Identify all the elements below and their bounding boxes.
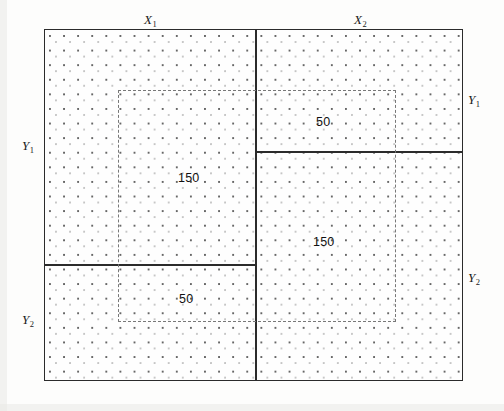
axis-label-y1-right: Y1 (468, 93, 479, 106)
cell-value-bottom-right: 150 (313, 236, 334, 249)
axis-label-x1-base: X (144, 12, 152, 27)
page-edge-artifact-bottom (0, 404, 504, 411)
axis-label-y2-left-base: Y (22, 312, 29, 327)
dashed-overlay-rectangle (118, 90, 396, 322)
axis-label-y1-right-sub: 1 (476, 99, 480, 109)
axis-label-y1-left-base: Y (22, 138, 29, 153)
axis-label-y1-left: Y1 (22, 139, 33, 152)
axis-label-y2-right-sub: 2 (476, 277, 480, 287)
axis-label-x1-sub: 1 (152, 19, 156, 29)
axis-label-y2-left-sub: 2 (30, 319, 34, 329)
axis-label-y2-right: Y2 (468, 271, 479, 284)
axis-label-x2-sub: 2 (362, 19, 366, 29)
axis-label-x2-base: X (354, 12, 362, 27)
partition-diagram: X1 X2 Y1 Y2 Y1 Y2 50 150 150 50 (0, 0, 504, 411)
cell-value-top-left: 150 (178, 172, 199, 185)
page-edge-artifact-left (0, 0, 7, 411)
axis-label-x1: X1 (144, 13, 156, 26)
axis-label-y1-right-base: Y (468, 92, 475, 107)
axis-label-y2-right-base: Y (468, 270, 475, 285)
axis-label-x2: X2 (354, 13, 366, 26)
cell-value-top-right: 50 (316, 116, 330, 129)
axis-label-y1-left-sub: 1 (30, 145, 34, 155)
cell-value-bottom-left: 50 (179, 293, 193, 306)
axis-label-y2-left: Y2 (22, 313, 33, 326)
